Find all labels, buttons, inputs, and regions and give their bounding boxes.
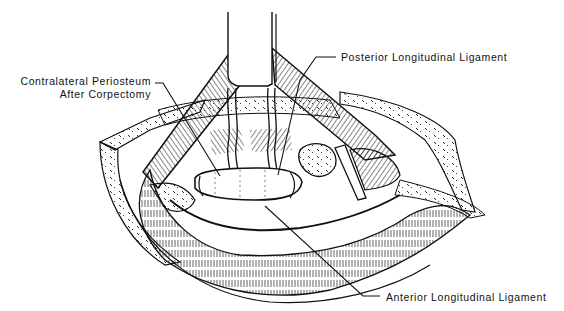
anatomy-drawing [0, 0, 564, 311]
bone-fragment [299, 144, 336, 177]
label-anterior-longitudinal-ligament: Anterior Longitudinal Ligament [386, 291, 546, 304]
retractor-center [228, 12, 272, 86]
label-posterior-longitudinal-ligament: Posterior Longitudinal Ligament [341, 51, 507, 64]
label-contralateral-line1: Contralateral Periosteum [14, 75, 151, 88]
label-contralateral-periosteum: Contralateral Periosteum After Corpectom… [14, 75, 151, 101]
surgical-illustration: Contralateral Periosteum After Corpectom… [0, 0, 564, 311]
label-contralateral-line2: After Corpectomy [14, 88, 151, 101]
corpectomy-trough [195, 168, 302, 200]
